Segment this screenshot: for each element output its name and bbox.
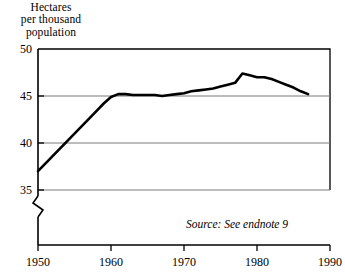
y-tick-label-35: 35 bbox=[6, 184, 32, 196]
x-tick-label-1950: 1950 bbox=[15, 256, 61, 268]
x-tick-label-1980: 1980 bbox=[234, 256, 280, 268]
x-tick-label-1990: 1990 bbox=[307, 256, 345, 268]
y-axis-title-line-1: Hectares bbox=[4, 1, 98, 13]
plot-frame bbox=[38, 49, 330, 190]
data-line-cropland-per-capita bbox=[38, 73, 308, 171]
y-axis-break-icon bbox=[33, 196, 43, 217]
y-axis-title-line-3: population bbox=[4, 26, 98, 38]
y-tick-label-50: 50 bbox=[6, 43, 32, 55]
x-tick-label-1960: 1960 bbox=[88, 256, 134, 268]
plot-area bbox=[0, 0, 345, 279]
chart-figure: Hectares per thousand population 50 45 4… bbox=[0, 0, 345, 279]
x-tick-label-1970: 1970 bbox=[161, 256, 207, 268]
y-axis-title-line-2: per thousand bbox=[4, 13, 98, 25]
source-note: Source: See endnote 9 bbox=[186, 218, 288, 230]
y-axis-title: Hectares per thousand population bbox=[4, 1, 98, 38]
y-tick-label-45: 45 bbox=[6, 90, 32, 102]
y-tick-label-40: 40 bbox=[6, 137, 32, 149]
